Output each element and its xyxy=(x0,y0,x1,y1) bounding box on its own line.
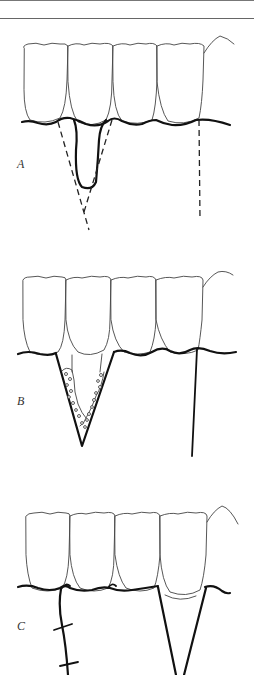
panel-label-a: A xyxy=(16,157,25,171)
panel-c xyxy=(18,506,238,675)
panel-label-b: B xyxy=(17,394,25,408)
sutured-closure-c xyxy=(60,589,68,675)
incision-left-a xyxy=(58,122,89,230)
wedge-incision-b xyxy=(56,352,114,446)
releasing-incision-b xyxy=(192,349,197,456)
teeth-a xyxy=(24,36,235,125)
teeth-b xyxy=(23,271,233,355)
releasing-incision-a xyxy=(199,120,200,220)
suture-stitch-2 xyxy=(60,662,78,666)
panel-b xyxy=(18,271,236,456)
gum-line-b-right xyxy=(114,348,236,355)
teeth-c xyxy=(26,506,238,599)
panel-a xyxy=(22,36,234,230)
gum-line-c-right xyxy=(205,586,230,593)
panel-label-c: C xyxy=(17,619,26,633)
dental-diagram: A xyxy=(0,0,254,675)
donor-site-c xyxy=(158,587,176,675)
